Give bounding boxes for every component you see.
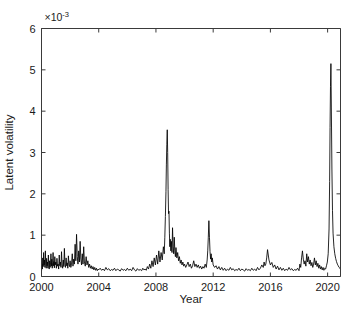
- x-tick-label: 2012: [201, 281, 225, 293]
- latent-volatility-chart: 200020042008201220162020 0123456 ×10-3 Y…: [0, 0, 358, 320]
- y-tick-label: 5: [29, 64, 35, 76]
- y-axis-label: Latent volatility: [3, 114, 15, 190]
- x-tick-label: 2016: [258, 281, 282, 293]
- y-tick-label: 1: [29, 229, 35, 241]
- x-tick-label: 2020: [315, 281, 339, 293]
- x-tick-label: 2004: [86, 281, 110, 293]
- figure-background: [0, 0, 358, 320]
- y-tick-label: 2: [29, 188, 35, 200]
- x-axis-label: Year: [179, 293, 202, 305]
- y-tick-label: 6: [29, 23, 35, 35]
- y-tick-label: 4: [29, 105, 35, 117]
- chart-figure: 200020042008201220162020 0123456 ×10-3 Y…: [0, 0, 358, 320]
- y-tick-label: 3: [29, 147, 35, 159]
- x-tick-label: 2008: [144, 281, 168, 293]
- y-tick-label: 0: [29, 271, 35, 283]
